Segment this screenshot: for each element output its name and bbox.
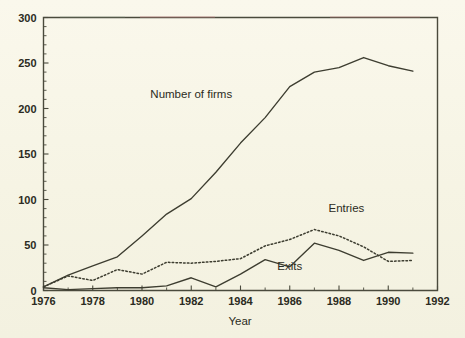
y-tick-label: 50 (24, 239, 36, 251)
y-tick-label: 150 (18, 148, 36, 160)
series-annotations: Number of firmsEntriesExits (150, 88, 364, 273)
axis-ticks (44, 18, 438, 291)
x-axis-title: Year (228, 315, 251, 327)
y-tick-label: 250 (18, 57, 36, 69)
x-axis-tick-labels: 197619781980198219841986198819901992 (31, 295, 449, 307)
x-tick-label: 1992 (425, 295, 449, 307)
x-tick-label: 1978 (81, 295, 105, 307)
x-tick-label: 1988 (327, 295, 351, 307)
chart-page: 197619781980198219841986198819901992 050… (0, 0, 465, 338)
y-axis-tick-labels: 050100150200250300 (18, 12, 36, 297)
y-tick-label: 200 (18, 103, 36, 115)
series-label-number-of-firms: Number of firms (150, 88, 232, 100)
series-label-exits: Exits (277, 260, 302, 272)
plot-frame (44, 18, 438, 291)
x-tick-label: 1990 (376, 295, 400, 307)
series-line-exits (44, 243, 413, 289)
x-tick-label: 1982 (179, 295, 203, 307)
x-tick-label: 1980 (130, 295, 154, 307)
y-tick-label: 100 (18, 194, 36, 206)
x-tick-label: 1984 (228, 295, 253, 307)
y-tick-label: 300 (18, 12, 36, 24)
x-tick-label: 1986 (278, 295, 302, 307)
line-chart: 197619781980198219841986198819901992 050… (0, 0, 465, 338)
series-label-entries: Entries (328, 202, 364, 214)
y-tick-label: 0 (30, 285, 36, 297)
